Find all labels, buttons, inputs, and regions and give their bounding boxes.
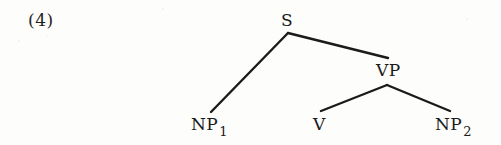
tree-node-np1-label: NP	[191, 114, 218, 134]
tree-branch-lines	[0, 0, 501, 145]
tree-node-np1: NP1	[191, 116, 226, 133]
tree-node-s: S	[281, 12, 293, 29]
tree-node-v: V	[313, 116, 326, 133]
branch-s-np1	[211, 33, 288, 112]
tree-node-np2-subscript: 2	[463, 124, 471, 139]
branch-s-vp	[288, 33, 388, 58]
tree-node-np1-subscript: 1	[219, 124, 227, 139]
tree-node-vp-label: VP	[376, 60, 401, 80]
tree-node-v-label: V	[313, 114, 326, 134]
branch-vp-v	[321, 85, 387, 111]
tree-node-np2: NP2	[435, 116, 470, 133]
tree-node-np2-label: NP	[435, 114, 462, 134]
tree-node-vp: VP	[376, 62, 401, 79]
syntax-tree-figure: (4) S VP NP1 V NP2	[0, 0, 501, 145]
branch-vp-np2	[387, 85, 450, 111]
tree-node-s-label: S	[281, 10, 293, 30]
